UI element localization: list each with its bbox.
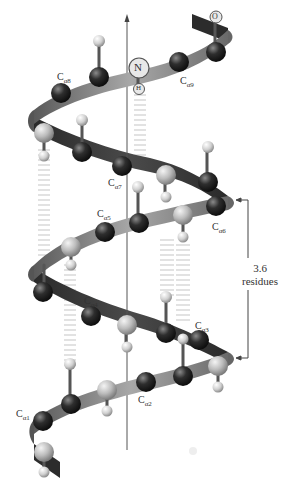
carbon-alpha-8: [51, 83, 71, 103]
label-ca6: Cα6: [212, 222, 226, 235]
alpha-helix-diagram: [0, 0, 282, 495]
carbonyl-carbon: [61, 237, 81, 257]
hydrogen-label: H: [136, 85, 141, 92]
hydrogen-atom: [178, 334, 189, 345]
faint-marker: [189, 447, 197, 455]
label-ca7: Cα7: [108, 178, 122, 191]
hydrogen-atom: [213, 382, 224, 393]
hydrogen-atom: [178, 232, 189, 243]
carbonyl-carbon: [97, 380, 117, 400]
pitch-label: 3.6 residues: [238, 262, 282, 288]
label-ca1: Cα1: [16, 409, 30, 422]
carbon-alpha-1: [33, 411, 53, 431]
label-ca4: Cα4: [84, 296, 98, 309]
hydrogen-atom: [161, 192, 172, 203]
carbon-atom: [206, 42, 226, 62]
hydrogen-atom: [64, 358, 76, 370]
carbon-alpha-2: [136, 372, 156, 392]
carbonyl-carbon: [173, 205, 193, 225]
carbonyl-carbon: [117, 315, 137, 335]
nitrogen-label: N: [134, 62, 142, 73]
carbon-atom: [156, 323, 176, 343]
carbon-alpha-4: [81, 306, 101, 326]
carbon-alpha-9: [169, 52, 189, 72]
carbonyl-carbon: [34, 442, 54, 462]
hbond-stack-1: [38, 150, 50, 255]
label-ca9: Cα9: [180, 76, 194, 89]
hydrogen-atom: [76, 114, 88, 126]
hydrogen-atom: [66, 260, 77, 271]
carbon-atom: [206, 196, 226, 216]
hydrogen-atom: [160, 291, 172, 303]
carbon-atom: [89, 67, 109, 87]
carbon-alpha-7: [112, 156, 132, 176]
hydrogen-atom: [102, 406, 113, 417]
hydrogen-atom: [122, 342, 133, 353]
hbond-stack-2: [134, 95, 146, 155]
hbond-stack-4: [160, 240, 174, 295]
hbond-stack-3: [64, 265, 76, 365]
label-ca3: Cα3: [195, 321, 209, 334]
pitch-unit: residues: [238, 275, 282, 288]
carbon-alpha-5: [95, 222, 115, 242]
carbonyl-carbon: [156, 165, 176, 185]
carbonyl-carbon: [208, 356, 228, 376]
hbond-stack-5: [176, 245, 190, 320]
carbonyl-carbon: [34, 123, 54, 143]
carbon-atom: [173, 366, 193, 386]
hydrogen-atom: [93, 35, 105, 47]
oxygen-label: O: [212, 13, 218, 21]
carbon-atom: [198, 172, 218, 192]
hydrogen-atom: [202, 141, 214, 153]
hydrogen-atom: [39, 151, 50, 162]
label-ca2: Cα2: [138, 395, 152, 408]
carbon-atom: [72, 142, 92, 162]
label-ca8: Cα8: [57, 72, 71, 85]
carbon-atom: [129, 213, 149, 233]
pitch-value: 3.6: [238, 262, 282, 275]
carbon-atom: [33, 282, 53, 302]
label-ca5: Cα5: [97, 209, 111, 222]
hydrogen-atom: [39, 467, 50, 478]
carbon-atom: [61, 394, 81, 414]
hydrogen-atom: [132, 181, 144, 193]
